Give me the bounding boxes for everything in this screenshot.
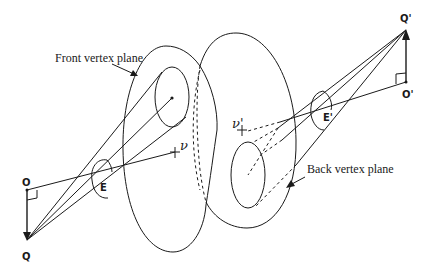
right-angle-marker-left: [27, 190, 37, 200]
object-arrow: [23, 189, 37, 242]
back-vertex-plane-label: Back vertex plane: [307, 162, 394, 176]
optics-vertex-plane-diagram: Front vertex plane Back vertex plane Q O…: [0, 0, 429, 270]
point-nu-prime-label: ν': [232, 116, 243, 131]
point-E-prime-label: E': [323, 112, 333, 123]
point-O-label: O: [22, 177, 31, 188]
point-E-label: E: [100, 182, 107, 193]
point-nu-label: ν: [180, 138, 188, 153]
back-plane-pointer: [286, 177, 305, 188]
point-Q-label: Q: [22, 251, 31, 262]
front-plane-hidden-edge: [193, 70, 200, 190]
front-plane-pointer: [112, 64, 138, 76]
nu-marker: [170, 147, 180, 158]
point-Q-prime-label: Q': [400, 13, 412, 24]
front-vertex-plane: [123, 46, 217, 252]
point-O-prime-label: O': [402, 89, 414, 100]
front-vertex-plane-label: Front vertex plane: [55, 51, 143, 65]
left-ray-bundle: [27, 72, 186, 240]
